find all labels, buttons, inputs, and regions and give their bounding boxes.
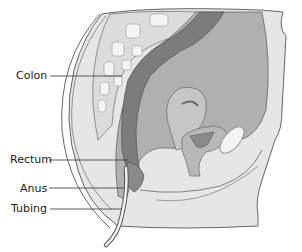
label-rectum: Rectum [10, 154, 52, 166]
label-colon: Colon [16, 70, 47, 82]
label-anus: Anus [20, 183, 47, 195]
anatomy-diagram: Colon Rectum Anus Tubing [0, 0, 302, 252]
label-tubing: Tubing [11, 203, 47, 215]
